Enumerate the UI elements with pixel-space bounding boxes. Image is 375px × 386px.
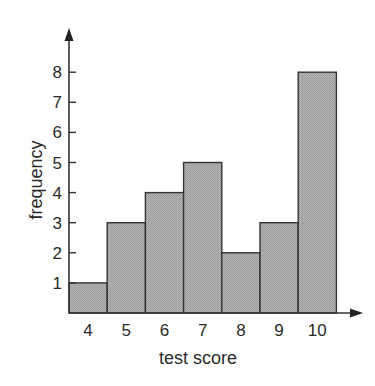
x-ticks-group: 45678910 [83, 321, 326, 340]
bar-10 [298, 72, 336, 313]
bar-4 [69, 283, 107, 313]
x-tick-label: 4 [83, 321, 92, 340]
bar-5 [107, 223, 145, 313]
y-tick-label: 7 [53, 93, 62, 112]
y-axis-title: frequency [26, 140, 46, 219]
histogram-chart: 12345678 45678910 frequency test score [0, 0, 375, 386]
y-axis-arrow-icon [65, 28, 74, 41]
bar-6 [145, 193, 183, 313]
bar-8 [222, 253, 260, 313]
y-tick-label: 1 [53, 274, 62, 293]
x-tick-label: 6 [160, 321, 169, 340]
bar-7 [184, 163, 222, 314]
y-tick-label: 6 [53, 123, 62, 142]
x-tick-label: 5 [122, 321, 131, 340]
x-tick-label: 8 [236, 321, 245, 340]
y-ticks-group: 12345678 [53, 63, 76, 293]
x-axis-arrow-icon [350, 309, 363, 318]
y-tick-label: 2 [53, 244, 62, 263]
x-tick-label: 10 [308, 321, 327, 340]
y-tick-label: 8 [53, 63, 62, 82]
x-axis-title: test score [159, 348, 237, 368]
y-tick-label: 3 [53, 214, 62, 233]
x-tick-label: 7 [198, 321, 207, 340]
bar-9 [260, 223, 298, 313]
y-tick-label: 4 [53, 184, 62, 203]
y-tick-label: 5 [53, 154, 62, 173]
bars-group [69, 72, 336, 313]
x-tick-label: 9 [274, 321, 283, 340]
